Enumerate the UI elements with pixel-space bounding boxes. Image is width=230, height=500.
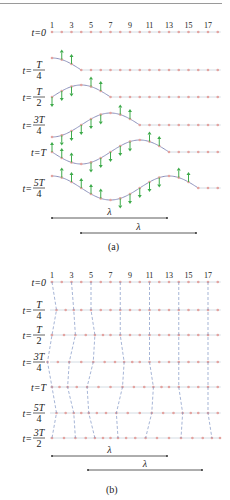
wave-row-b-6 xyxy=(50,437,221,440)
wave-row-a-1 xyxy=(51,50,221,72)
svg-text:4: 4 xyxy=(37,188,42,199)
row-label-b-2: t=T2 xyxy=(22,324,45,346)
point-labels-b: 1357911131517 xyxy=(50,271,212,280)
row-label-b-5: t=5T4 xyxy=(22,402,45,424)
svg-text:5: 5 xyxy=(89,271,93,280)
wave-row-b-1 xyxy=(50,309,221,312)
caption-a: (a) xyxy=(108,241,119,252)
svg-text:13: 13 xyxy=(165,271,173,280)
svg-text:t=: t= xyxy=(22,120,32,131)
row-label-a-5: t=5T4 xyxy=(22,177,45,199)
svg-text:T: T xyxy=(36,299,43,310)
wave-row-a-4 xyxy=(50,132,221,173)
row-label-b-0: t=0 xyxy=(31,277,46,288)
svg-text:4: 4 xyxy=(37,125,42,136)
svg-text:t=: t= xyxy=(22,183,32,194)
svg-text:15: 15 xyxy=(185,271,193,280)
svg-text:4: 4 xyxy=(37,310,42,321)
svg-text:3T: 3T xyxy=(33,427,46,438)
svg-text:t=T: t=T xyxy=(31,382,48,393)
svg-text:t=: t= xyxy=(22,92,32,103)
row-label-a-2: t=T2 xyxy=(22,86,45,108)
svg-text:T: T xyxy=(36,324,43,335)
svg-text:2: 2 xyxy=(37,97,42,108)
svg-text:t=: t= xyxy=(22,65,32,76)
svg-text:17: 17 xyxy=(204,271,212,280)
svg-text:t=: t= xyxy=(22,330,32,341)
row-label-b-6: t=3T2 xyxy=(22,427,45,449)
wave-row-b-4 xyxy=(50,386,221,389)
wave-row-b-0 xyxy=(50,281,221,284)
svg-text:5T: 5T xyxy=(34,402,46,413)
wavelength-bar-b-1: λ xyxy=(87,458,203,471)
row-label-a-0: t=0 xyxy=(31,27,46,38)
svg-text:t=0: t=0 xyxy=(31,27,46,38)
row-label-b-4: t=T xyxy=(31,382,48,393)
svg-text:λ: λ xyxy=(142,458,148,469)
svg-text:λ: λ xyxy=(106,444,112,455)
svg-text:3T: 3T xyxy=(33,114,46,125)
svg-text:11: 11 xyxy=(146,271,154,280)
svg-text:3: 3 xyxy=(70,271,74,280)
wave-row-a-2 xyxy=(50,77,221,107)
row-label-b-3: t=3T4 xyxy=(22,351,45,373)
svg-text:4: 4 xyxy=(37,413,42,424)
svg-text:4: 4 xyxy=(37,70,42,81)
wave-row-a-5 xyxy=(51,168,221,209)
svg-text:13: 13 xyxy=(165,21,173,30)
svg-text:7: 7 xyxy=(109,271,113,280)
svg-text:15: 15 xyxy=(185,21,193,30)
svg-text:2: 2 xyxy=(37,438,42,449)
row-label-a-1: t=T4 xyxy=(22,59,45,81)
svg-text:1: 1 xyxy=(50,21,54,30)
svg-text:T: T xyxy=(36,59,43,70)
svg-text:2: 2 xyxy=(37,335,42,346)
svg-text:9: 9 xyxy=(128,271,132,280)
svg-text:T: T xyxy=(36,86,43,97)
row-label-a-4: t=T xyxy=(31,147,48,158)
svg-text:7: 7 xyxy=(109,21,113,30)
svg-text:λ: λ xyxy=(135,221,141,232)
svg-text:1: 1 xyxy=(50,271,54,280)
svg-text:3: 3 xyxy=(70,21,74,30)
svg-text:4: 4 xyxy=(37,362,42,373)
svg-text:5T: 5T xyxy=(34,177,46,188)
svg-text:5: 5 xyxy=(89,21,93,30)
wave-row-b-5 xyxy=(50,412,221,415)
caption-b: (b) xyxy=(106,484,118,495)
svg-text:9: 9 xyxy=(128,21,132,30)
row-label-a-3: t=3T4 xyxy=(22,114,45,136)
svg-text:t=: t= xyxy=(22,305,32,316)
row-label-b-1: t=T4 xyxy=(22,299,45,321)
wavelength-bar-a-0: λ xyxy=(51,206,168,219)
svg-text:t=: t= xyxy=(22,357,32,368)
svg-text:t=: t= xyxy=(22,433,32,444)
point-labels-a: 1357911131517 xyxy=(50,21,212,30)
svg-text:17: 17 xyxy=(204,21,212,30)
wavelength-bar-b-0: λ xyxy=(51,444,168,457)
svg-text:11: 11 xyxy=(146,21,154,30)
svg-text:t=T: t=T xyxy=(31,147,48,158)
wave-row-b-3 xyxy=(46,361,221,364)
wave-row-a-3 xyxy=(51,105,221,146)
svg-text:t=0: t=0 xyxy=(31,277,46,288)
wavelength-bar-a-1: λ xyxy=(80,221,197,234)
particle-traces-b xyxy=(48,282,212,438)
svg-text:λ: λ xyxy=(106,206,112,217)
svg-text:t=: t= xyxy=(22,408,32,419)
svg-text:3T: 3T xyxy=(33,351,46,362)
wave-row-a-0 xyxy=(51,31,221,34)
